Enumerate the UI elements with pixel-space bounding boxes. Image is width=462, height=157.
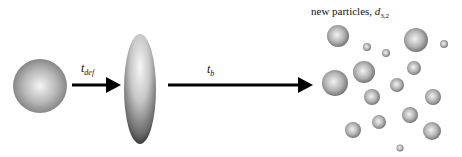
breakup-diagram: tdef tb new particles, d3,2 [0, 0, 462, 157]
label-t-b: tb [207, 62, 214, 78]
label-new-particles: new particles, d3,2 [311, 5, 389, 20]
arrow-breakup [168, 77, 313, 93]
label-t-def: tdef [81, 61, 94, 77]
new-particles-cluster [322, 25, 448, 152]
deformed-droplet [124, 34, 156, 144]
diagram-canvas [0, 0, 462, 157]
initial-droplet [13, 59, 67, 113]
arrow-deformation [72, 77, 121, 93]
